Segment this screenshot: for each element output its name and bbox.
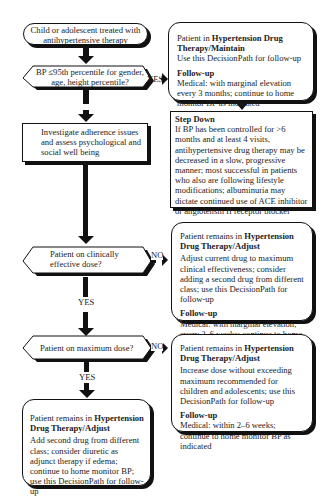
decision-max-text: Patient on maximum dose? xyxy=(40,343,133,353)
investigate-text: Investigate adherence issues and assess … xyxy=(41,127,141,157)
decision-max: Patient on maximum dose? xyxy=(40,343,145,353)
adjust1-followup-title: Follow-up xyxy=(180,308,306,318)
adjust-node-2: Patient remains in Hypertension Drug The… xyxy=(171,334,313,432)
start-node: Child or adolescent treated with antihyp… xyxy=(23,23,148,45)
step-down-title: Step Down xyxy=(175,114,308,124)
adjust-node-1: Patient remains in Hypertension Drug The… xyxy=(171,222,313,321)
decision-max-yes-label: YES xyxy=(79,372,95,382)
adjust2-intro: Patient remains in xyxy=(180,343,244,353)
decision-effective-yes-label: YES xyxy=(78,297,94,307)
adjust2-followup-title: Follow-up xyxy=(180,410,306,420)
investigate-node: Investigate adherence issues and assess … xyxy=(22,123,148,162)
adjust3-body: Add second drug from different class; co… xyxy=(30,435,144,496)
maintain-followup-body: Medical: with marginal elevation every 3… xyxy=(177,78,307,109)
maintain-intro: Patient in xyxy=(177,33,212,43)
decision-bp-text: BP ≤95th percentile for gender, age, hei… xyxy=(36,67,144,87)
maintain-followup-title: Follow-up xyxy=(177,68,307,78)
maintain-node: Patient in Hypertension Drug Therapy/Mai… xyxy=(168,22,314,101)
arrow-start-to-bp xyxy=(78,45,94,64)
maintain-body: Use this DecisionPath for follow-up xyxy=(177,53,307,63)
step-down-node: Step Down If BP has been controlled for … xyxy=(170,111,313,208)
decision-effective-text: Patient on clinically effective dose? xyxy=(50,249,119,269)
decision-effective: Patient on clinically effective dose? xyxy=(50,249,140,269)
adjust3-intro: Patient remains in xyxy=(30,413,94,423)
adjust2-followup-body: Medical: within 2–6 weeks; continue to h… xyxy=(180,420,306,451)
decision-bp-yes-label: YES xyxy=(147,74,163,84)
adjust1-intro: Patient remains in xyxy=(180,231,244,241)
decision-bp: BP ≤95th percentile for gender, age, hei… xyxy=(36,67,144,87)
start-text: Child or adolescent treated with antihyp… xyxy=(31,25,141,45)
adjust2-body: Increase dose without exceeding maximum … xyxy=(180,365,306,406)
step-down-body: If BP has been controlled for >6 months … xyxy=(175,124,308,216)
decision-max-no-label: NO xyxy=(151,341,163,351)
adjust1-body: Adjust current drug to maximum clinical … xyxy=(180,253,306,304)
adjust-node-3: Patient remains in Hypertension Drug The… xyxy=(22,399,151,486)
decision-effective-no-label: NO xyxy=(151,250,163,260)
